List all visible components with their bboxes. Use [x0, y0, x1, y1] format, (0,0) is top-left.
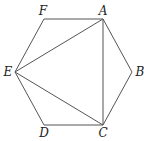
- label-C: C: [98, 126, 107, 140]
- label-A: A: [98, 4, 108, 18]
- label-D: D: [38, 126, 49, 140]
- label-E: E: [3, 65, 13, 79]
- diagonal-CE: [15, 72, 103, 125]
- edge-DE: [15, 72, 44, 125]
- edge-EF: [15, 19, 44, 72]
- hexagon-diagram: F A B E D C: [0, 0, 144, 141]
- edge-AB: [103, 19, 132, 72]
- label-B: B: [135, 65, 144, 79]
- diagonal-AE: [15, 19, 103, 72]
- label-F: F: [38, 4, 48, 18]
- edge-BC: [103, 72, 132, 125]
